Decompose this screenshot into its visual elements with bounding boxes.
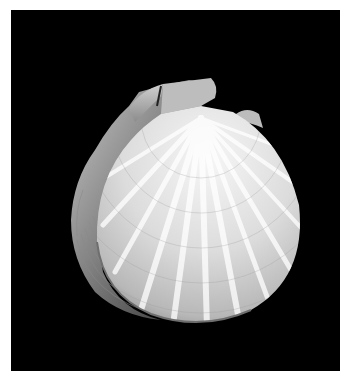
scallop-shell-illustration: [11, 10, 340, 371]
scallop-photo: [11, 10, 340, 371]
